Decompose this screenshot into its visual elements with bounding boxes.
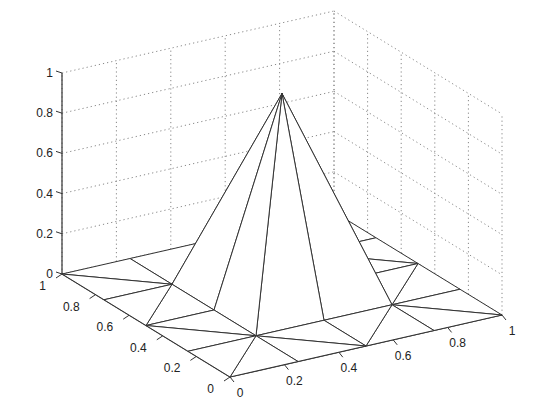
x-tick-label: 0.6 <box>395 349 412 363</box>
y-tick-label: 0.2 <box>164 361 181 375</box>
y-tick-label: 0.6 <box>97 320 114 334</box>
y-tick-label: 0 <box>207 382 214 396</box>
x-tick-label: 1 <box>509 324 516 338</box>
y-tick-label: 1 <box>39 279 46 293</box>
mesh-surface <box>62 94 502 378</box>
x-tick-label: 0 <box>237 386 244 400</box>
z-tick-label: 0 <box>46 267 53 281</box>
z-tick-label: 0.6 <box>36 146 53 160</box>
z-tick-label: 1 <box>46 66 53 80</box>
x-tick-label: 0.2 <box>286 374 303 388</box>
z-tick-label: 0.2 <box>36 227 53 241</box>
z-tick-label: 0.8 <box>36 106 53 120</box>
y-tick-label: 0.4 <box>130 341 147 355</box>
x-tick-label: 0.4 <box>340 361 357 375</box>
z-tick-label: 0.4 <box>36 187 53 201</box>
y-tick-label: 0.8 <box>63 300 80 314</box>
x-tick-label: 0.8 <box>449 336 466 350</box>
surface-plot: 00.20.40.60.8100.20.40.60.8100.20.40.60.… <box>0 0 539 410</box>
